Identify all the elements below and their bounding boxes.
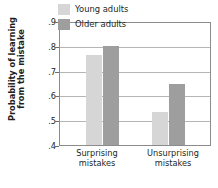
y-axis-title: Probability of learning from the mistake — [0, 0, 34, 152]
legend-label: Young adults — [75, 4, 128, 14]
bar-older-surprising — [103, 46, 119, 145]
y-tick-label: .8 — [34, 42, 56, 52]
y-tick-label: .5 — [34, 116, 56, 126]
y-tick-label: .9 — [34, 17, 56, 27]
y-axis-title-line2: from the mistake — [17, 29, 26, 108]
x-category-label-unsurprising: Unsurprising mistakes — [132, 149, 214, 168]
x-category-line2: mistakes — [132, 159, 214, 169]
gridline-080 — [60, 47, 210, 48]
gridline-050 — [60, 121, 210, 122]
y-tick-label: .4 — [34, 141, 56, 151]
x-category-label-surprising: Surprising mistakes — [60, 149, 134, 168]
legend-item-older-adults: Older adults — [58, 18, 128, 30]
bar-young-surprising — [86, 55, 102, 145]
y-axis-tick-labels: .9 .8 .7 .6 .5 .4 — [34, 0, 56, 188]
bar-young-unsurprising — [152, 112, 168, 145]
y-tick-label: .6 — [34, 91, 56, 101]
bar-older-unsurprising — [169, 84, 185, 145]
gridline-070 — [60, 72, 210, 73]
legend-item-young-adults: Young adults — [58, 3, 128, 15]
legend-swatch-icon — [58, 4, 70, 15]
x-category-line2: mistakes — [60, 159, 134, 169]
legend-swatch-icon — [58, 19, 70, 30]
bar-chart: Probability of learning from the mistake… — [0, 0, 218, 188]
plot-area — [59, 22, 211, 146]
legend: Young adults Older adults — [58, 3, 128, 30]
y-tick-label: .7 — [34, 67, 56, 77]
y-tickmark — [55, 146, 59, 147]
legend-label: Older adults — [75, 19, 126, 29]
gridline-060 — [60, 96, 210, 97]
